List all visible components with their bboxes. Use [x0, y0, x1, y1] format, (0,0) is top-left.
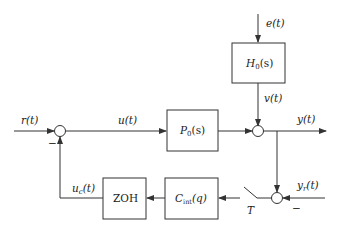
label-uc: uc(t): [72, 182, 95, 196]
label-u: u(t): [118, 114, 137, 126]
label-e: e(t): [266, 17, 285, 29]
summing-junction-3: [272, 193, 283, 204]
sampler-switch: [244, 187, 257, 198]
label-r: r(t): [21, 114, 38, 126]
label-v: v(t): [264, 92, 282, 104]
label-yr: yr(t): [296, 179, 319, 193]
label-y: y(t): [296, 113, 315, 125]
block-p0-label: P0(s): [179, 124, 205, 138]
block-diagram: e(t) v(t) r(t) u(t) y(t) yr(t) uc(t) − −…: [0, 0, 338, 233]
block-zoh-label: ZOH: [113, 192, 138, 204]
summing-junction-2: [253, 126, 264, 137]
switch-period-label: T: [247, 204, 255, 216]
minus-sign-sum3: −: [292, 202, 301, 214]
summing-junction-1: [55, 126, 66, 137]
minus-sign-sum1: −: [48, 137, 57, 149]
block-h0-label: H0(s): [245, 57, 273, 71]
